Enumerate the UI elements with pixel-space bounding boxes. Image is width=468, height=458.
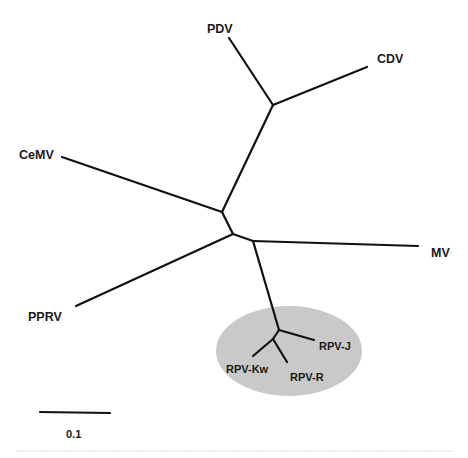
- taxon-label-mv: MV: [431, 246, 450, 260]
- taxon-label-rpv-kw: RPV-Kw: [226, 363, 269, 375]
- branch-internal-top: [222, 105, 273, 212]
- phylogenetic-tree: PDV CDV CeMV MV PPRV RPV-J RPV-Kw RPV-R …: [0, 0, 468, 458]
- branch-pdv: [229, 38, 273, 105]
- taxon-label-rpv-r: RPV-R: [290, 371, 324, 383]
- branch-internal-mid: [222, 212, 233, 234]
- branch-cdv: [273, 67, 367, 105]
- branch-internal-low: [233, 234, 253, 241]
- branch-pprv: [76, 234, 233, 306]
- taxon-label-pprv: PPRV: [28, 310, 62, 324]
- taxon-label-cemv: CeMV: [19, 148, 54, 162]
- taxon-label-rpv-j: RPV-J: [319, 340, 351, 352]
- branch-mv: [253, 241, 418, 246]
- scale-bar-label: 0.1: [66, 428, 81, 440]
- taxon-label-cdv: CDV: [377, 52, 404, 66]
- scale-bar: [40, 412, 110, 413]
- tree-branches: [62, 38, 418, 362]
- branch-cemv: [62, 157, 222, 212]
- taxon-label-pdv: PDV: [207, 22, 233, 36]
